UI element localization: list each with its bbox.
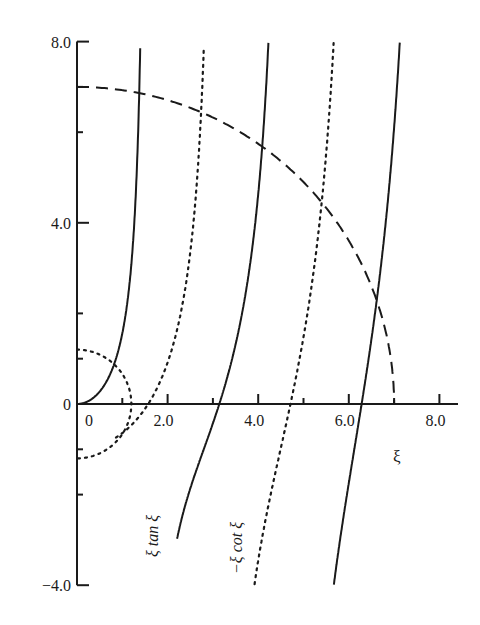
y-tick-label: −4.0 (42, 577, 71, 594)
curves (77, 43, 400, 585)
x-tick-label: 0 (85, 412, 93, 429)
y-tick-label: 8.0 (51, 34, 71, 51)
chart-canvas: 8.04.00−4.002.04.06.08.0 ξ ξ tan ξ −ξ co… (0, 0, 480, 625)
tan-curve (77, 43, 400, 585)
x-tick-label: 6.0 (335, 412, 355, 429)
x-tick-label: 8.0 (425, 412, 445, 429)
cot-curve-label: −ξ cot ξ (228, 522, 245, 574)
x-axis-label: ξ (393, 447, 401, 466)
y-tick-label: 0 (63, 396, 71, 413)
large-circle (77, 87, 394, 404)
y-tick-label: 4.0 (51, 215, 71, 232)
x-tick-label: 2.0 (154, 412, 174, 429)
x-tick-label: 4.0 (244, 412, 264, 429)
labels: ξ ξ tan ξ −ξ cot ξ (144, 447, 401, 574)
tan-curve-label: ξ tan ξ (144, 515, 161, 557)
